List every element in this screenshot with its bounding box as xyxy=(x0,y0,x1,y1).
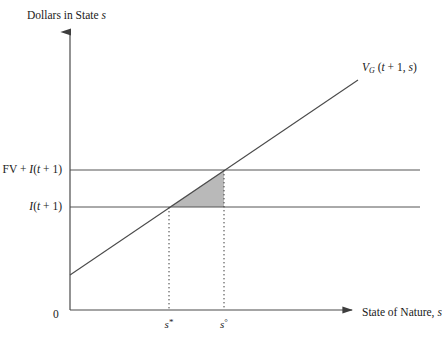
x-axis-title: State of Nature, s xyxy=(362,307,442,319)
y-tick-label-upper: FV + I(t + 1) xyxy=(0,164,62,176)
shaded-region xyxy=(169,170,224,207)
origin-label: 0 xyxy=(53,309,59,321)
value-of-guarantee-line xyxy=(70,80,358,275)
series-label-value-of-guarantee: VG (t + 1, s) xyxy=(362,62,417,75)
y-axis-title: Dollars in State s xyxy=(27,10,106,22)
x-tick-label-s-circ: s° xyxy=(209,318,239,330)
x-tick-label-s-star: s* xyxy=(154,318,184,330)
y-tick-label-lower: I(t + 1) xyxy=(0,201,62,213)
